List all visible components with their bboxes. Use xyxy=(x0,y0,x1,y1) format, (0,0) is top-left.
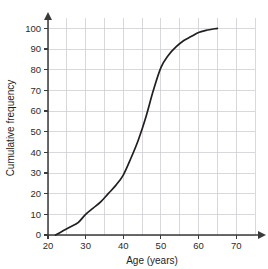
x-axis-tick-labels: 203040506070 xyxy=(43,240,242,251)
y-tick-label: 60 xyxy=(30,105,41,116)
x-axis-arrow-icon xyxy=(258,231,266,239)
y-tick-label: 70 xyxy=(30,85,41,96)
y-tick-label: 40 xyxy=(30,147,41,158)
vertical-gridlines xyxy=(48,18,255,235)
x-tick-label: 30 xyxy=(80,240,91,251)
horizontal-gridlines xyxy=(48,28,255,235)
y-tick-label: 10 xyxy=(30,209,41,220)
y-axis-tick-labels: 0102030405060708090100 xyxy=(25,23,41,241)
x-tick-label: 60 xyxy=(193,240,204,251)
x-tick-label: 20 xyxy=(43,240,54,251)
y-tick-label: 50 xyxy=(30,126,41,137)
y-tick-label: 100 xyxy=(25,23,41,34)
cumulative-frequency-chart: 203040506070 0102030405060708090100 Age … xyxy=(0,0,268,269)
y-tick-label: 30 xyxy=(30,167,41,178)
y-axis-title: Cumulative frequency xyxy=(5,80,16,177)
y-tick-label: 20 xyxy=(30,188,41,199)
x-axis-title: Age (years) xyxy=(126,255,178,266)
y-tick-label: 80 xyxy=(30,64,41,75)
x-tick-label: 40 xyxy=(118,240,129,251)
x-tick-label: 70 xyxy=(231,240,242,251)
x-tick-label: 50 xyxy=(156,240,167,251)
y-tick-label: 0 xyxy=(36,229,41,240)
chart-canvas: 203040506070 0102030405060708090100 Age … xyxy=(0,0,268,269)
y-axis-arrow-icon xyxy=(44,12,52,20)
y-tick-label: 90 xyxy=(30,43,41,54)
